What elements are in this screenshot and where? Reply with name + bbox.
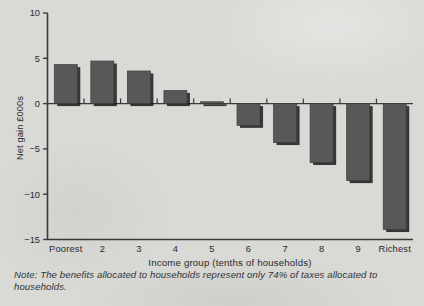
bar[interactable] — [127, 71, 150, 104]
x-tick-label: 8 — [319, 244, 324, 254]
bar[interactable] — [347, 104, 370, 181]
bar[interactable] — [274, 104, 297, 143]
bar[interactable] — [91, 61, 114, 104]
x-tick-label: 2 — [100, 244, 105, 254]
bar[interactable] — [237, 104, 260, 126]
bar-chart: 1050−5−10−15 Poorest23456789Richest Net … — [0, 0, 424, 306]
y-tick-label: −15 — [24, 235, 40, 245]
bar[interactable] — [310, 104, 333, 163]
x-tick-labels: Poorest23456789Richest — [49, 244, 411, 254]
x-tick-label: 9 — [355, 244, 360, 254]
y-tick-label: 5 — [35, 54, 40, 64]
bar[interactable] — [200, 102, 223, 104]
x-tick-label: 4 — [173, 244, 178, 254]
chart-note: Note: The benefits allocated to househol… — [14, 269, 412, 294]
y-tick-label: −10 — [24, 190, 40, 200]
y-tick-label: 0 — [35, 99, 40, 109]
x-tick-label: Poorest — [49, 244, 83, 254]
bar[interactable] — [54, 65, 77, 104]
y-axis-title: Net gain £000s — [15, 96, 25, 160]
y-tick-label: 10 — [30, 8, 40, 18]
chart-page: 1050−5−10−15 Poorest23456789Richest Net … — [0, 0, 424, 306]
bar-shadow — [203, 104, 226, 106]
x-tick-label: 6 — [246, 244, 251, 254]
x-tick-label: 3 — [136, 244, 141, 254]
x-tick-label: Richest — [379, 244, 412, 254]
x-tick-label: 5 — [209, 244, 214, 254]
bar[interactable] — [383, 104, 406, 230]
y-tick-labels: 1050−5−10−15 — [24, 8, 40, 245]
chart-canvas: 1050−5−10−15 Poorest23456789Richest Net … — [0, 0, 424, 306]
x-tick-label: 7 — [282, 244, 287, 254]
y-tick-label: −5 — [29, 144, 40, 154]
x-axis-title: Income group (tenths of households) — [148, 257, 311, 268]
bar-series — [54, 61, 409, 232]
bar[interactable] — [164, 90, 187, 103]
